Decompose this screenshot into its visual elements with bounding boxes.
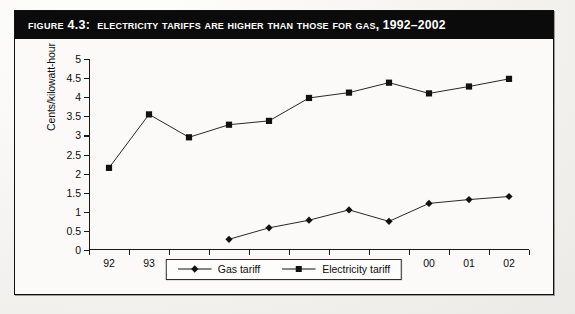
square-marker-icon — [506, 76, 512, 82]
square-marker-icon — [306, 95, 312, 101]
square-marker-icon — [466, 83, 472, 89]
x-axis-tick — [409, 250, 410, 255]
x-axis-tick-label: 93 — [143, 257, 155, 269]
square-marker-icon — [186, 134, 192, 140]
x-axis-tick-label: 01 — [463, 257, 475, 269]
y-axis-tick-label: 0 — [75, 244, 81, 256]
diamond-marker-icon — [178, 264, 212, 274]
series-lines — [89, 59, 529, 250]
diamond-marker-icon — [505, 193, 512, 200]
diamond-marker-icon — [425, 200, 432, 207]
y-axis-label: Cents/kilowatt-hour — [45, 11, 57, 131]
diamond-marker-icon — [465, 196, 472, 203]
page-title: Electricity Tariffs are Higher Than Thos… — [97, 18, 445, 32]
y-axis-tick-label: 3 — [75, 129, 81, 141]
x-axis-tick — [329, 250, 330, 255]
axes: 00.511.522.533.544.55 929394959697989900… — [89, 59, 529, 250]
x-axis-tick — [249, 250, 250, 255]
legend-label-electricity-tariff: Electricity tariff — [322, 263, 390, 275]
x-axis-tick — [169, 250, 170, 255]
y-axis-tick-label: 1.5 — [66, 187, 81, 199]
diamond-marker-icon — [385, 218, 392, 225]
x-axis-tick-label: 00 — [423, 257, 435, 269]
y-axis-tick-label: 5 — [75, 53, 81, 65]
figure-number: Figure 4.3: — [28, 18, 90, 32]
square-marker-icon — [266, 118, 272, 124]
y-axis-tick-label: 4.5 — [66, 72, 81, 84]
x-axis-tick — [449, 250, 450, 255]
page-caption-cutoff — [22, 300, 222, 312]
x-axis-tick — [209, 250, 210, 255]
diamond-marker-icon — [265, 224, 272, 231]
y-axis-tick-label: 2.5 — [66, 149, 81, 161]
x-axis-tick — [289, 250, 290, 255]
x-axis-tick — [489, 250, 490, 255]
y-axis-tick-label: 2 — [75, 168, 81, 180]
y-axis-tick-label: 4 — [75, 91, 81, 103]
x-axis-tick — [529, 250, 530, 255]
x-axis-tick — [369, 250, 370, 255]
legend-item-gas-tariff: Gas tariff — [178, 263, 260, 275]
diamond-marker-icon — [305, 217, 312, 224]
square-marker-icon — [282, 264, 316, 274]
square-marker-icon — [386, 80, 392, 86]
diamond-marker-icon — [345, 206, 352, 213]
legend-item-electricity-tariff: Electricity tariff — [282, 263, 390, 275]
x-axis-tick-label: 02 — [503, 257, 515, 269]
square-marker-icon — [226, 122, 232, 128]
figure-title-banner: Figure 4.3: Electricity Tariffs are High… — [15, 11, 553, 39]
series-line-gas-tariff — [229, 197, 509, 240]
legend-label-gas-tariff: Gas tariff — [218, 263, 260, 275]
y-axis-tick-label: 0.5 — [66, 225, 81, 237]
square-marker-icon — [146, 111, 152, 117]
y-axis-tick-label: 1 — [75, 206, 81, 218]
series-line-electricity-tariff — [109, 79, 509, 168]
chart-legend: Gas tariff Electricity tariff — [166, 259, 402, 280]
x-axis-tick-label: 92 — [103, 257, 115, 269]
square-marker-icon — [106, 165, 112, 171]
x-axis-tick — [89, 250, 90, 255]
square-marker-icon — [426, 90, 432, 96]
figure-frame: Figure 4.3: Electricity Tariffs are High… — [14, 10, 554, 295]
x-axis-tick — [129, 250, 130, 255]
chart-plot-area: Cents/kilowatt-hour 00.511.522.533.544.5… — [15, 39, 553, 294]
diamond-marker-icon — [225, 236, 232, 243]
y-axis-tick-label: 3.5 — [66, 110, 81, 122]
square-marker-icon — [346, 90, 352, 96]
